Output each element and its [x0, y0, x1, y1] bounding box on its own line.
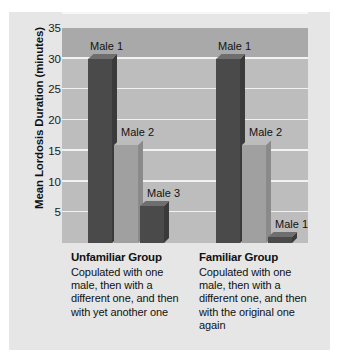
bar-familiar-group-2	[242, 145, 266, 243]
bar-side-face	[266, 140, 271, 243]
caption-heading: Unfamiliar Group	[71, 251, 189, 263]
bar-side-face	[164, 201, 169, 243]
y-axis-tick-label: 5	[35, 206, 61, 218]
y-axis-ticks: 5101520253035	[31, 12, 61, 350]
bar-unfamiliar-group-3	[140, 206, 164, 243]
y-axis-tick-label: 30	[35, 53, 61, 65]
caption-text: Copulated with one male, then with a dif…	[199, 266, 317, 332]
bar-label: Male 2	[249, 126, 282, 138]
y-axis-tick-label: 35	[35, 22, 61, 34]
bar-unfamiliar-group-2	[114, 145, 138, 243]
caption-familiar-group: Familiar Group Copulated with one male, …	[199, 251, 317, 332]
bar-familiar-group-3	[268, 237, 292, 243]
bar-front	[114, 145, 138, 243]
y-axis-tick-label: 25	[35, 83, 61, 95]
bar-label: Male 2	[121, 126, 154, 138]
bar-top-face	[216, 54, 246, 59]
bar-front	[140, 206, 164, 243]
caption-unfamiliar-group: Unfamiliar Group Copulated with one male…	[71, 251, 189, 319]
y-axis-tick-label: 20	[35, 114, 61, 126]
y-axis-tick-label: 15	[35, 145, 61, 157]
bar-top-face	[88, 54, 118, 59]
bar-label: Male 3	[147, 187, 180, 199]
bar-front	[216, 59, 240, 243]
bar-front	[242, 145, 266, 243]
bar-label: Male 1	[218, 40, 251, 52]
y-axis-tick-label: 10	[35, 176, 61, 188]
bar-front	[268, 237, 292, 243]
bar-label: Male 1	[90, 40, 123, 52]
bar-front	[88, 59, 112, 243]
bar-familiar-group-1	[216, 59, 240, 243]
chart-figure: Mean Lordosis Duration (minutes) 5101520…	[9, 12, 330, 350]
caption-heading: Familiar Group	[199, 251, 317, 263]
bar-top-face	[114, 140, 144, 145]
bar-label: Male 1	[275, 218, 308, 230]
x-axis-baseline	[62, 12, 308, 14]
bar-top-face	[242, 140, 272, 145]
plot-area: Male 1Male 2Male 3Male 1Male 2Male 1	[62, 28, 308, 243]
bar-unfamiliar-group-1	[88, 59, 112, 243]
caption-text: Copulated with one male, then with a dif…	[71, 266, 189, 319]
